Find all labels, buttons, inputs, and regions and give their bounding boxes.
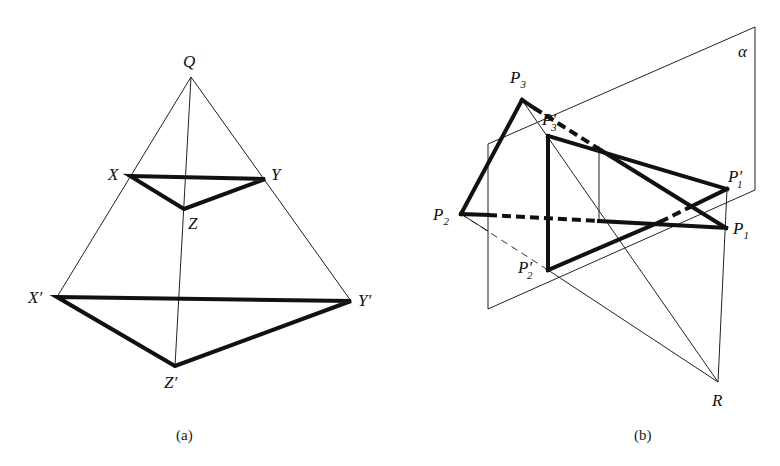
figure-a: Q X Y Z X′ Y′ Z′ (a) [27, 52, 371, 444]
label-p1-prime: P′1 [727, 167, 743, 190]
edge-p2prime-p1prime-hidden [660, 207, 690, 222]
edge-p2-p3 [461, 100, 522, 214]
label-p2: P2 [432, 205, 449, 227]
label-y: Y [271, 165, 282, 184]
label-p1: P1 [732, 219, 749, 241]
edge-p2-p1-visible [461, 214, 488, 215]
ray-q-xprime [57, 77, 191, 297]
triangle-xyz [130, 176, 265, 209]
label-p2-prime: P′2 [517, 258, 533, 281]
edge-p3-p1-visible [522, 100, 534, 108]
edge-p3prime-p1prime [548, 136, 727, 189]
label-z-prime: Z′ [164, 373, 177, 392]
ray-p2prime-r [548, 270, 718, 382]
edge-p3-p1-front [599, 149, 726, 228]
label-z: Z [188, 214, 198, 233]
diagram-canvas: Q X Y Z X′ Y′ Z′ (a) P3 [0, 0, 780, 466]
caption-a: (a) [176, 427, 193, 444]
label-r: R [711, 391, 723, 410]
edge-p2prime-p1prime-end [690, 189, 727, 207]
label-x-prime: X′ [27, 288, 42, 307]
edge-p2-p1-hidden [488, 215, 599, 221]
figure-b: P3 P′3 P2 P′2 P′1 P1 R α (b) [432, 27, 755, 444]
label-x: X [107, 165, 119, 184]
ray-p1prime-r [718, 189, 727, 382]
caption-b: (b) [634, 427, 652, 444]
label-p3: P3 [509, 68, 526, 90]
edge-p2prime-p1prime-visible [548, 222, 660, 270]
label-alpha: α [738, 42, 748, 61]
label-y-prime: Y′ [358, 291, 371, 310]
triangle-xyz-prime [57, 297, 351, 366]
label-p3-prime: P′3 [541, 110, 557, 133]
ray-q-yprime [191, 77, 351, 301]
label-q: Q [183, 52, 195, 71]
